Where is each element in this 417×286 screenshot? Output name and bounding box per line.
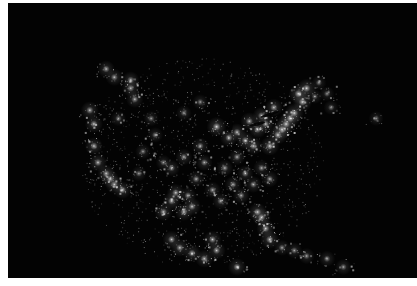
city-lights-canvas <box>8 3 417 278</box>
night-lights-satellite-photo <box>8 3 417 278</box>
